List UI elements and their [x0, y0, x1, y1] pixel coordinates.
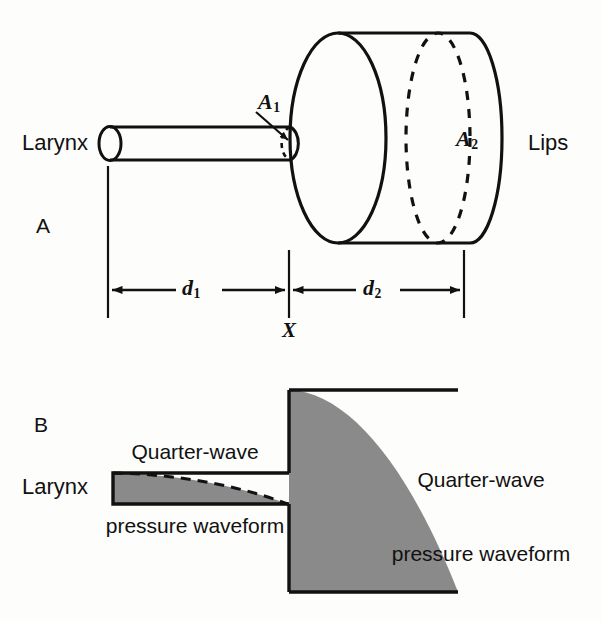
dimension-d1-subscript: 1 — [193, 286, 200, 301]
panel-a-larynx-label: Larynx — [22, 130, 88, 156]
junction-x-label: X — [282, 318, 296, 343]
dimension-d1-label: d1 — [182, 275, 200, 302]
panel-a-lips-label: Lips — [528, 130, 568, 156]
panel-b-right-caption-line2: pressure waveform — [366, 542, 596, 567]
narrow-tube-body — [99, 127, 298, 161]
panel-a-drawing — [99, 33, 502, 318]
panel-b-larynx-label: Larynx — [22, 474, 88, 500]
panel-b-right-caption: Quarter-wave pressure waveform — [366, 418, 596, 616]
panel-b-left-caption-line2: pressure waveform — [86, 514, 304, 539]
area-a1-label: A1 — [258, 89, 280, 116]
figure-container: A Larynx Lips A1 A2 d1 d2 X B Quarter-wa… — [0, 0, 602, 621]
panel-b-letter: B — [34, 413, 48, 438]
dimension-d2-subscript: 2 — [374, 286, 381, 301]
area-a1-symbol: A — [258, 89, 273, 114]
area-a2-symbol: A — [456, 126, 471, 151]
panel-b-left-caption-line1: Quarter-wave — [86, 440, 304, 465]
area-a2-label: A2 — [456, 126, 478, 153]
dimension-d2-symbol: d — [363, 275, 374, 300]
dimension-d1-symbol: d — [182, 275, 193, 300]
panel-a-letter: A — [36, 214, 50, 239]
dimension-d2-label: d2 — [363, 275, 381, 302]
panel-b-left-caption: Quarter-wave pressure waveform — [86, 390, 304, 588]
area-a2-subscript: 2 — [471, 137, 478, 152]
panel-b-right-caption-line1: Quarter-wave — [366, 468, 596, 493]
area-a1-subscript: 1 — [273, 100, 280, 115]
